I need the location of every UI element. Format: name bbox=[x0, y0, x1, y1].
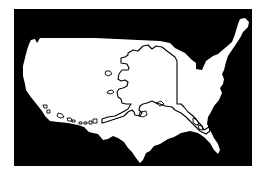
map-canvas bbox=[0, 0, 266, 177]
map-figure bbox=[0, 0, 266, 177]
